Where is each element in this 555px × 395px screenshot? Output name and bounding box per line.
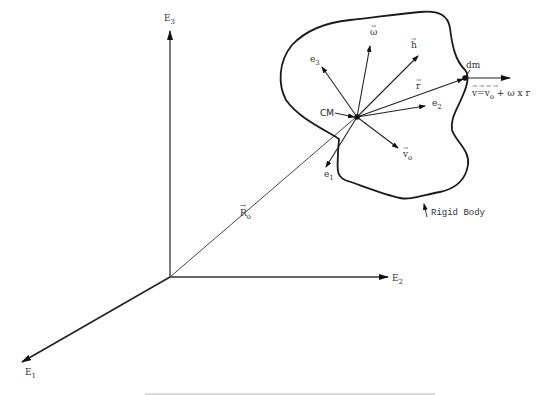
svg-text:→ → → →: → → → → xyxy=(472,82,498,89)
svg-text:→: → xyxy=(371,22,376,29)
label-e1-axis: E1 xyxy=(25,367,36,380)
label-dm: dm xyxy=(466,60,481,70)
label-e3-axis: E3 xyxy=(164,13,175,26)
axis-e2-body xyxy=(357,106,425,117)
velocity-equation: v=vo + ω x r → → → → xyxy=(471,82,530,101)
rigid-body-diagram: E3 E2 E1 Ro → CM e3 e2 e1 ω → h → r → vo… xyxy=(0,0,555,395)
axis-e1 xyxy=(22,277,170,362)
label-rigid-body: Rigid Body xyxy=(431,208,486,218)
label-e2-body: e2 xyxy=(432,98,442,111)
label-e1-body: e1 xyxy=(324,169,334,182)
label-cm: CM xyxy=(320,108,334,118)
inertial-axes xyxy=(22,31,388,362)
position-vector-ro xyxy=(170,118,355,277)
label-e2-axis: E2 xyxy=(392,273,403,286)
svg-text:→: → xyxy=(411,35,416,42)
svg-text:→: → xyxy=(403,144,408,151)
diagram-svg: E3 E2 E1 Ro → CM e3 e2 e1 ω → h → r → vo… xyxy=(0,0,555,395)
rigid-body-pointer xyxy=(424,204,427,217)
axis-e1-body xyxy=(326,117,357,167)
vector-vo xyxy=(357,117,398,148)
label-e3-body: e3 xyxy=(310,54,320,67)
cm-point xyxy=(354,114,360,120)
svg-text:→: → xyxy=(416,76,421,83)
body-vectors xyxy=(322,46,463,167)
svg-text:→: → xyxy=(240,202,246,210)
vector-r xyxy=(357,79,463,117)
svg-text:v=vo + ω x r: v=vo + ω x r xyxy=(471,88,530,101)
cm-pointer xyxy=(335,113,354,117)
